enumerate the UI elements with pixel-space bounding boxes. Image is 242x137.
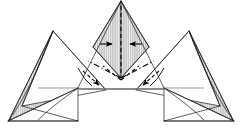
origami-figure: Origami Fold Step Diagram Symmetric orig… xyxy=(0,0,242,137)
origami-diagram-root: Origami Fold Step Diagram Symmetric orig… xyxy=(0,0,242,137)
